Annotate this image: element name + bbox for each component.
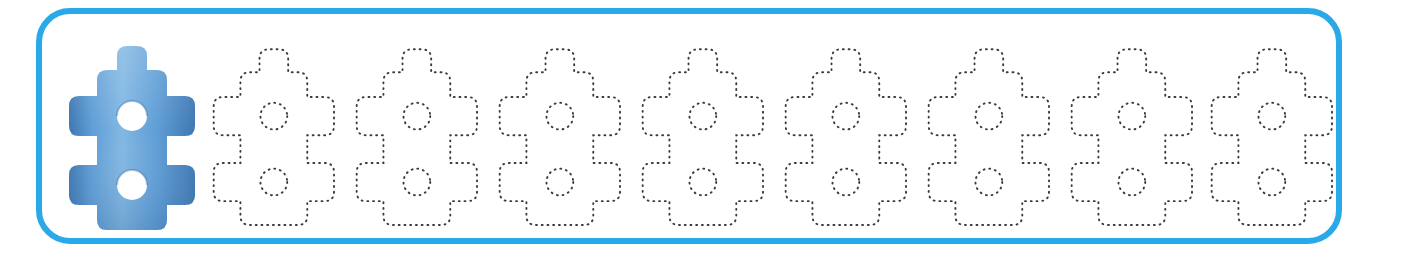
trace-hole-bottom — [832, 169, 859, 196]
trace-outline — [786, 49, 906, 225]
trace-hole-bottom — [260, 169, 287, 196]
trace-shape-8[interactable] — [1203, 32, 1343, 237]
trace-hole-top — [260, 103, 287, 130]
trace-hole-bottom — [689, 169, 716, 196]
trace-outline — [500, 49, 620, 225]
trace-shape-5[interactable] — [777, 32, 917, 237]
trace-shape-6[interactable] — [920, 32, 1060, 237]
trace-shape-2[interactable] — [348, 32, 488, 237]
trace-shape-4[interactable] — [634, 32, 774, 237]
trace-outline — [1072, 49, 1192, 225]
trace-hole-bottom — [403, 169, 430, 196]
trace-hole-top — [832, 103, 859, 130]
shape-row — [0, 0, 1402, 262]
trace-hole-top — [975, 103, 1002, 130]
trace-outline — [357, 49, 477, 225]
trace-hole-bottom — [975, 169, 1002, 196]
trace-outline — [929, 49, 1049, 225]
worksheet-canvas — [0, 0, 1402, 262]
trace-shape-1[interactable] — [205, 32, 345, 237]
trace-hole-bottom — [1258, 169, 1285, 196]
trace-shape-7[interactable] — [1063, 32, 1203, 237]
trace-outline — [214, 49, 334, 225]
trace-hole-top — [1258, 103, 1285, 130]
trace-hole-top — [546, 103, 573, 130]
model-shape-sheen — [62, 30, 202, 235]
trace-shape-3[interactable] — [491, 32, 631, 237]
trace-hole-top — [403, 103, 430, 130]
model-shape — [62, 30, 202, 235]
trace-hole-top — [689, 103, 716, 130]
trace-hole-bottom — [1118, 169, 1145, 196]
trace-hole-top — [1118, 103, 1145, 130]
trace-outline — [1212, 49, 1332, 225]
trace-hole-bottom — [546, 169, 573, 196]
trace-outline — [643, 49, 763, 225]
